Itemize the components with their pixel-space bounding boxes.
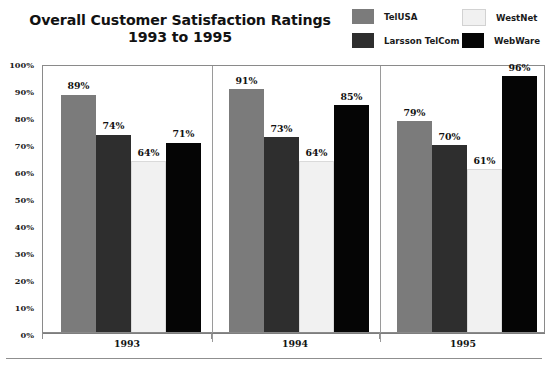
y-tick-70: 70% <box>15 141 34 151</box>
y-tick-80: 80% <box>15 114 34 124</box>
y-tick-30: 30% <box>15 249 34 259</box>
bar-1995-larsson <box>432 145 467 332</box>
x-axis-tick-2 <box>379 333 380 339</box>
legend-item-larsson: Larsson TelCom <box>352 33 459 48</box>
bar-label-1994-westnet: 64% <box>296 147 337 158</box>
plot-area: 89% 74% 64% 71% 91% 73% 64% 85% 79% 70% … <box>42 65 545 333</box>
bar-1993-telusa <box>61 95 96 333</box>
legend-item-webware: WebWare <box>462 33 540 48</box>
bar-label-1995-webware: 96% <box>499 62 540 73</box>
bar-label-1993-larsson: 74% <box>93 120 134 131</box>
bar-label-1993-telusa: 89% <box>58 80 99 91</box>
legend-label-telusa: TelUSA <box>384 12 417 22</box>
legend-swatch-telusa <box>352 9 374 24</box>
bar-1993-westnet <box>131 161 166 332</box>
x-category-1994: 1994 <box>250 338 340 349</box>
bar-label-1994-webware: 85% <box>331 91 372 102</box>
bar-label-1995-westnet: 61% <box>464 155 505 166</box>
bar-label-1993-westnet: 64% <box>128 147 169 158</box>
bar-1995-webware <box>502 76 537 332</box>
group-separator-1 <box>212 66 213 342</box>
y-tick-10: 10% <box>15 303 34 313</box>
chart-subtitle: 1993 to 1995 <box>22 29 338 46</box>
bar-1994-larsson <box>264 137 299 332</box>
bar-1994-webware <box>334 105 369 332</box>
legend-swatch-webware <box>462 33 484 48</box>
legend-label-larsson: Larsson TelCom <box>384 36 459 46</box>
legend-swatch-larsson <box>352 33 374 48</box>
y-tick-100: 100% <box>9 60 34 70</box>
legend-label-webware: WebWare <box>494 36 540 46</box>
bar-label-1995-telusa: 79% <box>394 107 435 118</box>
bar-1994-westnet <box>299 161 334 332</box>
group-separator-2 <box>380 66 381 342</box>
x-category-1993: 1993 <box>82 338 172 349</box>
bar-label-1994-telusa: 91% <box>226 75 267 86</box>
bar-label-1993-webware: 71% <box>163 128 204 139</box>
x-axis-line <box>42 333 545 334</box>
legend-label-westnet: WestNet <box>496 13 537 23</box>
y-tick-20: 20% <box>15 276 34 286</box>
page-title: Overall Customer Satisfaction Ratings <box>22 12 338 29</box>
bar-1994-telusa <box>229 89 264 332</box>
legend-swatch-westnet <box>462 9 486 26</box>
y-tick-90: 90% <box>15 87 34 97</box>
x-category-1995: 1995 <box>418 338 508 349</box>
bar-label-1995-larsson: 70% <box>429 131 470 142</box>
chart-figure: Overall Customer Satisfaction Ratings 19… <box>0 0 556 369</box>
bar-1995-telusa <box>397 121 432 332</box>
y-tick-60: 60% <box>15 168 34 178</box>
bottom-rule <box>6 358 542 359</box>
y-axis: 100% 90% 80% 70% 60% 50% 40% 30% 20% 10%… <box>0 58 38 340</box>
legend-item-telusa: TelUSA <box>352 9 417 24</box>
chart-title-block: Overall Customer Satisfaction Ratings 19… <box>22 12 338 46</box>
bar-1993-webware <box>166 143 201 332</box>
x-axis-tick-left <box>42 333 43 339</box>
y-tick-40: 40% <box>15 222 34 232</box>
x-axis-tick-1 <box>211 333 212 339</box>
y-tick-0: 0% <box>21 330 34 340</box>
y-tick-50: 50% <box>15 195 34 205</box>
bar-label-1994-larsson: 73% <box>261 123 302 134</box>
chart-legend: TelUSA WestNet Larsson TelCom WebWare <box>352 6 556 52</box>
legend-item-westnet: WestNet <box>462 9 537 26</box>
bar-1993-larsson <box>96 135 131 332</box>
bar-1995-westnet <box>467 169 502 332</box>
